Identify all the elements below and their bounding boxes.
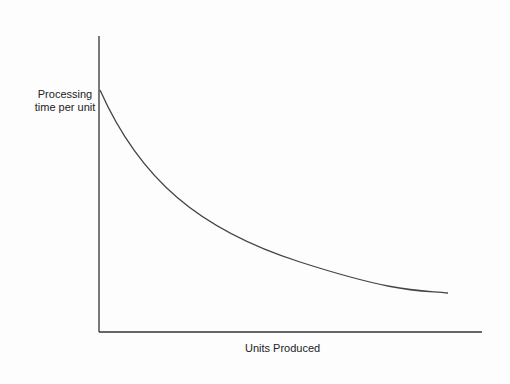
y-axis-label-line-1: Processing: [10, 88, 120, 101]
x-axis-label: Units Produced: [245, 342, 320, 354]
y-axis-label-line-2: time per unit: [10, 101, 120, 114]
learning-curve-chart: Processing time per unit Units Produced: [0, 0, 510, 384]
y-axis-label: Processing time per unit: [10, 88, 120, 114]
learning-curve-line: [100, 90, 448, 293]
chart-plot: [0, 0, 510, 384]
